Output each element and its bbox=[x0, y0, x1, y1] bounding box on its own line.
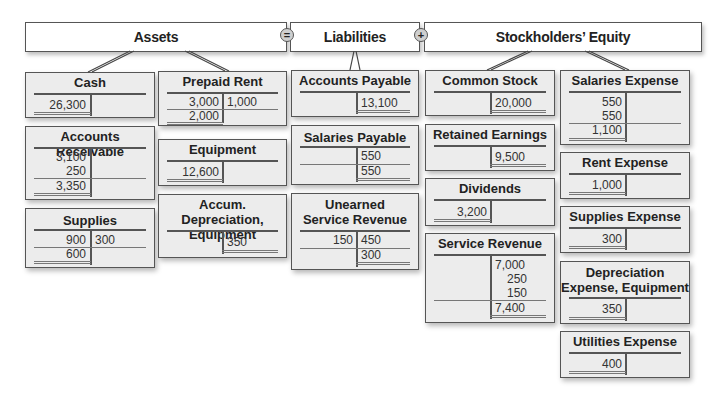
debit-entry: 550 bbox=[569, 109, 622, 123]
debit-entry: 250 bbox=[34, 164, 86, 178]
credit-entry: 9,500 bbox=[495, 150, 525, 164]
debit-entry: 150 bbox=[300, 233, 353, 247]
debit-entry: 3,200 bbox=[434, 205, 487, 219]
debit-entry: 550 bbox=[569, 95, 622, 109]
equity-header: Stockholders’ Equity bbox=[424, 22, 702, 52]
balance-entry: 3,350 bbox=[34, 179, 86, 193]
t-account-common-stock: Common Stock 20,000 bbox=[425, 70, 555, 116]
balance-entry: 300 bbox=[361, 248, 381, 262]
credit-entry: 350 bbox=[227, 235, 247, 249]
balance-entry: 7,400 bbox=[495, 301, 525, 315]
t-account-depreciation-expense: Depreciation Expense, Equipment 350 bbox=[560, 261, 690, 324]
credit-entry: 300 bbox=[95, 233, 115, 247]
t-account-prepaid-rent: Prepaid Rent 3,000 1,000 2,000 bbox=[158, 71, 287, 126]
t-account-retained-earnings: Retained Earnings 9,500 bbox=[425, 124, 555, 171]
t-account-supplies-expense: Supplies Expense 300 bbox=[560, 206, 690, 253]
t-account-utilities-expense: Utilities Expense 400 bbox=[560, 331, 690, 378]
account-title: Salaries Expense bbox=[561, 71, 689, 88]
debit-entry: 350 bbox=[569, 302, 622, 316]
t-account-accounts-receivable: Accounts Receivable 3,100 250 3,350 bbox=[25, 126, 155, 200]
account-title: Prepaid Rent bbox=[159, 72, 286, 89]
account-title: Cash bbox=[26, 73, 154, 90]
balance-entry: 2,000 bbox=[167, 109, 219, 123]
debit-entry: 400 bbox=[569, 357, 622, 371]
credit-entry: 7,000 bbox=[495, 258, 525, 272]
account-title: Depreciation Expense, Equipment bbox=[561, 262, 689, 295]
account-title: Equipment bbox=[159, 140, 286, 157]
debit-entry: 1,000 bbox=[569, 178, 622, 192]
debit-entry: 900 bbox=[34, 233, 86, 247]
t-account-cash: Cash 26,300 bbox=[25, 72, 155, 118]
credit-entry: 13,100 bbox=[361, 96, 398, 110]
assets-header-label: Assets bbox=[134, 29, 179, 45]
t-account-rent-expense: Rent Expense 1,000 bbox=[560, 152, 690, 199]
credit-entry: 150 bbox=[507, 286, 527, 300]
account-title: Rent Expense bbox=[561, 153, 689, 170]
account-title: Supplies Expense bbox=[561, 207, 689, 224]
account-title: Salaries Payable bbox=[292, 126, 418, 145]
t-account-salaries-payable: Salaries Payable 550 550 bbox=[291, 125, 419, 185]
debit-entry: 300 bbox=[569, 232, 622, 246]
t-account-supplies: Supplies 900 300 600 bbox=[25, 208, 155, 268]
t-account-service-revenue: Service Revenue 7,000 250 150 7,400 bbox=[425, 233, 555, 323]
t-account-dividends: Dividends 3,200 bbox=[425, 178, 555, 226]
balance-entry: 600 bbox=[34, 247, 86, 261]
credit-entry: 450 bbox=[361, 233, 381, 247]
debit-entry: 3,100 bbox=[34, 150, 86, 164]
credit-entry: 20,000 bbox=[495, 96, 532, 110]
assets-header: Assets bbox=[25, 22, 287, 52]
account-title: Accounts Payable bbox=[292, 71, 418, 88]
balance-entry: 1,100 bbox=[569, 123, 622, 137]
account-title: Utilities Expense bbox=[561, 332, 689, 349]
credit-entry: 550 bbox=[361, 149, 381, 163]
t-account-salaries-expense: Salaries Expense 550 550 1,100 bbox=[560, 70, 690, 145]
credit-entry: 1,000 bbox=[227, 95, 257, 109]
equals-icon: = bbox=[280, 28, 294, 42]
account-title: Dividends bbox=[426, 179, 554, 196]
debit-entry: 12,600 bbox=[167, 165, 219, 179]
t-account-equipment: Equipment 12,600 bbox=[158, 139, 287, 186]
debit-entry: 3,000 bbox=[167, 95, 219, 109]
plus-icon: + bbox=[414, 28, 428, 42]
account-title: Retained Earnings bbox=[426, 125, 554, 142]
account-title: Service Revenue bbox=[426, 234, 554, 251]
account-title: Common Stock bbox=[426, 71, 554, 88]
debit-entry: 26,300 bbox=[34, 98, 86, 112]
t-account-accounts-payable: Accounts Payable 13,100 bbox=[291, 70, 419, 117]
equity-header-label: Stockholders’ Equity bbox=[496, 29, 630, 45]
account-title: Unearned Service Revenue bbox=[292, 194, 418, 227]
liabilities-header-label: Liabilities bbox=[324, 29, 386, 45]
account-title: Supplies bbox=[26, 209, 154, 228]
liabilities-header: Liabilities bbox=[290, 22, 420, 52]
t-account-unearned-service-revenue: Unearned Service Revenue 150 450 300 bbox=[291, 193, 419, 270]
credit-entry: 250 bbox=[507, 272, 527, 286]
balance-entry: 550 bbox=[361, 164, 381, 178]
t-account-accum-depreciation: Accum. Depreciation, Equipment 350 bbox=[158, 194, 287, 258]
